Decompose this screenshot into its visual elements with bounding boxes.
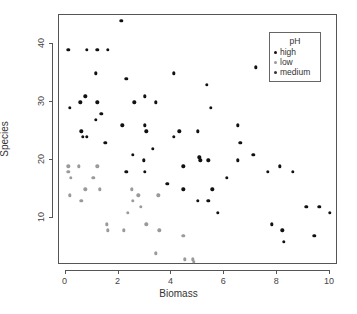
data-point [80,130,83,133]
y-axis-tick [49,43,53,44]
data-point [106,48,109,51]
data-point [85,48,88,51]
data-point [216,211,219,214]
data-point [178,130,181,133]
data-point [125,170,128,173]
data-point [145,223,148,226]
legend-item-low: low [274,57,316,67]
x-axis-tick [118,270,119,274]
data-point [81,135,84,138]
data-point [84,188,87,191]
data-point [225,176,228,179]
legend-item-high: high [274,47,316,57]
y-axis-tick-label: 10 [36,210,46,224]
data-point [183,257,186,260]
data-point [209,106,212,109]
y-axis-tick-label: 20 [36,152,46,166]
data-point [121,124,124,127]
data-point [270,223,273,226]
data-point [166,182,169,185]
data-point [94,71,97,74]
data-point [238,141,241,144]
y-axis-tick [49,101,53,102]
x-axis-line [65,270,329,271]
x-axis-label: Biomass [0,288,357,299]
data-point [207,159,210,162]
data-point [305,205,308,208]
data-point [94,118,97,121]
legend-item-medium: medium [274,67,316,77]
data-point [236,124,239,127]
data-point [131,199,134,202]
data-point [67,164,70,167]
y-axis-tick [49,217,53,218]
data-point [182,234,185,237]
data-point [77,164,80,167]
data-point [318,205,321,208]
data-point [131,153,134,156]
data-point [67,48,70,51]
x-axis-tick [223,270,224,274]
data-point [126,211,129,214]
data-point [254,66,257,69]
data-point [143,170,146,173]
data-point [142,159,145,162]
data-point [172,135,175,138]
data-point [106,228,109,231]
data-point [98,188,101,191]
legend-entries: highlowmedium [274,47,316,77]
data-point [125,77,128,80]
legend-marker-icon [274,51,277,54]
data-point [96,101,99,104]
data-point [143,95,146,98]
data-point [278,164,281,167]
data-point [252,153,255,156]
data-point [154,252,157,255]
data-point [196,199,199,202]
y-axis-tick-label: 40 [36,36,46,50]
data-point [156,194,159,197]
y-axis-label: Species [0,121,10,157]
chart-figure: 0246810 10203040 Biomass Species pH high… [0,0,357,314]
data-point [172,71,175,74]
x-axis-tick-label: 2 [115,276,120,286]
data-point [281,228,284,231]
data-point [291,170,294,173]
legend-item-label: low [280,57,293,67]
data-point [207,199,210,202]
data-point [139,205,142,208]
legend-title: pH [274,36,316,46]
data-point [92,176,95,179]
x-axis-tick-label: 10 [324,276,334,286]
data-point [199,159,202,162]
y-axis-tick [49,159,53,160]
legend-item-label: high [280,47,296,57]
data-point [104,141,107,144]
data-point [196,130,199,133]
y-axis-tick-label: 30 [36,94,46,108]
data-point [192,260,195,263]
data-point [266,170,269,173]
data-point [100,112,103,115]
data-point [236,159,239,162]
legend-item-label: medium [280,67,310,77]
data-point [67,170,70,173]
data-point [312,234,315,237]
data-point [143,124,146,127]
x-axis-tick [276,270,277,274]
x-axis-tick-label: 8 [274,276,279,286]
data-point [68,106,71,109]
data-point [328,211,331,214]
x-axis-tick [170,270,171,274]
legend: pH highlowmedium [269,32,321,82]
data-point [84,95,87,98]
data-point [78,101,81,104]
data-point [145,130,148,133]
data-point [133,101,136,104]
data-point [96,164,99,167]
x-axis-tick [329,270,330,274]
x-axis-tick [65,270,66,274]
data-point [137,194,140,197]
data-point [85,135,88,138]
legend-marker-icon [274,71,277,74]
